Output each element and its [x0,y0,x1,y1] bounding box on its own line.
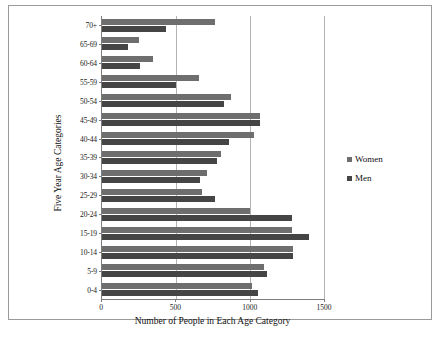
y-tick [99,271,102,272]
x-tick [324,299,325,302]
y-tick-label: 20-24 [80,210,97,219]
bar-women [102,264,264,270]
y-tick [99,120,102,121]
bar-rows: 70+65-6960-6455-5950-5445-4940-4435-3930… [102,16,324,299]
bar-men [102,271,267,277]
y-tick-label: 40-44 [80,134,97,143]
y-tick [99,82,102,83]
bar-women [102,56,153,62]
y-tick [99,290,102,291]
bar-women [102,19,215,25]
bar-group: 60-64 [102,55,324,71]
y-tick-label: 25-29 [80,191,97,200]
bar-women [102,246,293,252]
x-tick [101,299,102,302]
x-tick-label: 0 [99,303,103,312]
bar-group: 70+ [102,17,324,33]
legend-swatch-men-icon [347,176,352,181]
chart-legend: Women Men [347,154,383,192]
bar-men [102,101,224,107]
bar-group: 5-9 [102,263,324,279]
bar-men [102,177,200,183]
legend-item-women: Women [347,154,383,164]
x-tick-label: 1500 [317,303,332,312]
x-tick [175,299,176,302]
y-tick [99,63,102,64]
y-tick-label: 30-34 [80,172,97,181]
bar-men [102,26,166,32]
bar-group: 25-29 [102,187,324,203]
x-axis-title: Number of People in Each Age Category [101,316,324,326]
plot-area: 70+65-6960-6455-5950-5445-4940-4435-3930… [101,16,324,299]
bar-men [102,234,309,240]
y-tick-label: 0-4 [87,285,97,294]
bar-men [102,158,217,164]
bar-women [102,113,260,119]
bar-group: 20-24 [102,206,324,222]
bar-women [102,208,250,214]
bar-group: 50-54 [102,93,324,109]
bar-men [102,63,140,69]
bar-women [102,132,254,138]
gridline [324,16,325,299]
bar-group: 55-59 [102,74,324,90]
y-tick [99,101,102,102]
bar-men [102,44,128,50]
figure-frame: 70+65-6960-6455-5950-5445-4940-4435-3930… [8,5,432,320]
bar-women [102,151,221,157]
bar-women [102,189,202,195]
y-tick [99,139,102,140]
legend-item-men: Men [347,173,383,183]
y-tick [99,214,102,215]
bar-group: 40-44 [102,131,324,147]
bar-women [102,283,252,289]
y-tick [99,176,102,177]
bar-women [102,75,199,81]
bar-men [102,120,260,126]
x-tick-label: 500 [170,303,181,312]
y-tick-label: 15-19 [80,229,97,238]
bar-men [102,196,215,202]
legend-label-men: Men [355,173,372,183]
bar-men [102,82,176,88]
bar-group: 35-39 [102,149,324,165]
y-tick-label: 65-69 [80,39,97,48]
y-tick [99,25,102,26]
bar-group: 10-14 [102,244,324,260]
y-tick [99,195,102,196]
bar-men [102,139,229,145]
bar-women [102,227,292,233]
bar-group: 0-4 [102,282,324,298]
y-axis-title: Five Year Age Categories [53,98,63,228]
bar-men [102,215,292,221]
x-axis-ticks: 050010001500 [101,299,324,313]
bar-group: 15-19 [102,225,324,241]
bar-women [102,37,139,43]
y-tick-label: 5-9 [87,266,97,275]
x-tick-label: 1000 [242,303,257,312]
y-tick-label: 45-49 [80,115,97,124]
y-tick-label: 60-64 [80,58,97,67]
bar-group: 65-69 [102,36,324,52]
y-tick [99,252,102,253]
y-tick [99,233,102,234]
bar-women [102,170,207,176]
figure-caption [10,330,210,344]
y-tick [99,44,102,45]
legend-swatch-women-icon [347,157,352,162]
y-tick-label: 35-39 [80,153,97,162]
bar-group: 45-49 [102,112,324,128]
y-tick-label: 55-59 [80,77,97,86]
bar-men [102,253,293,259]
y-tick-label: 10-14 [80,248,97,257]
bar-women [102,94,231,100]
bar-group: 30-34 [102,168,324,184]
y-tick-label: 50-54 [80,96,97,105]
bar-men [102,290,258,296]
legend-label-women: Women [355,154,383,164]
y-tick-label: 70+ [86,21,97,30]
x-tick [250,299,251,302]
y-tick [99,157,102,158]
